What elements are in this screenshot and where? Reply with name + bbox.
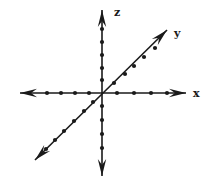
y-axis-tick-dot bbox=[82, 109, 86, 113]
z-axis-label: z bbox=[114, 6, 120, 19]
labels-layer: xyz bbox=[114, 6, 200, 100]
z-axis-tick-dot bbox=[100, 118, 104, 122]
y-axis-tick-dot bbox=[53, 138, 57, 142]
x-axis-tick-dot bbox=[87, 91, 91, 95]
z-axis-tick-dot bbox=[100, 66, 104, 70]
y-axis-tick-dot bbox=[123, 72, 127, 76]
z-axis-tick-dot bbox=[100, 104, 104, 108]
x-axis-tick-dot bbox=[132, 91, 136, 95]
x-axis-tick-dot bbox=[149, 91, 153, 95]
y-axis-tick-dot bbox=[72, 119, 76, 123]
y-axis-tick-dot bbox=[44, 147, 48, 151]
z-axis-tick-dot bbox=[100, 40, 104, 44]
z-axis-tick-dot bbox=[100, 146, 104, 150]
x-axis-label: x bbox=[193, 87, 200, 100]
y-axis-tick-dot bbox=[91, 100, 95, 104]
x-axis-tick-dot bbox=[115, 91, 119, 95]
x-axis-tick-dot bbox=[59, 91, 63, 95]
z-axis-tick-dot bbox=[100, 78, 104, 82]
y-axis-tick-dot bbox=[132, 64, 136, 68]
x-axis-tick-dot bbox=[165, 91, 169, 95]
x-axis-tick-dot bbox=[45, 91, 49, 95]
y-axis-tick-dot bbox=[142, 55, 146, 59]
z-axis-tick-dot bbox=[100, 132, 104, 136]
x-axis-tick-dot bbox=[73, 91, 77, 95]
z-axis-tick-dot bbox=[100, 53, 104, 57]
y-axis-label: y bbox=[173, 27, 181, 40]
y-axis-tick-dot bbox=[153, 46, 157, 50]
y-axis-tick-dot bbox=[62, 129, 66, 133]
z-axis-tick-dot bbox=[100, 27, 104, 31]
coordinate-axes-diagram: xyz bbox=[0, 0, 208, 185]
y-axis-tick-dot bbox=[112, 81, 116, 85]
